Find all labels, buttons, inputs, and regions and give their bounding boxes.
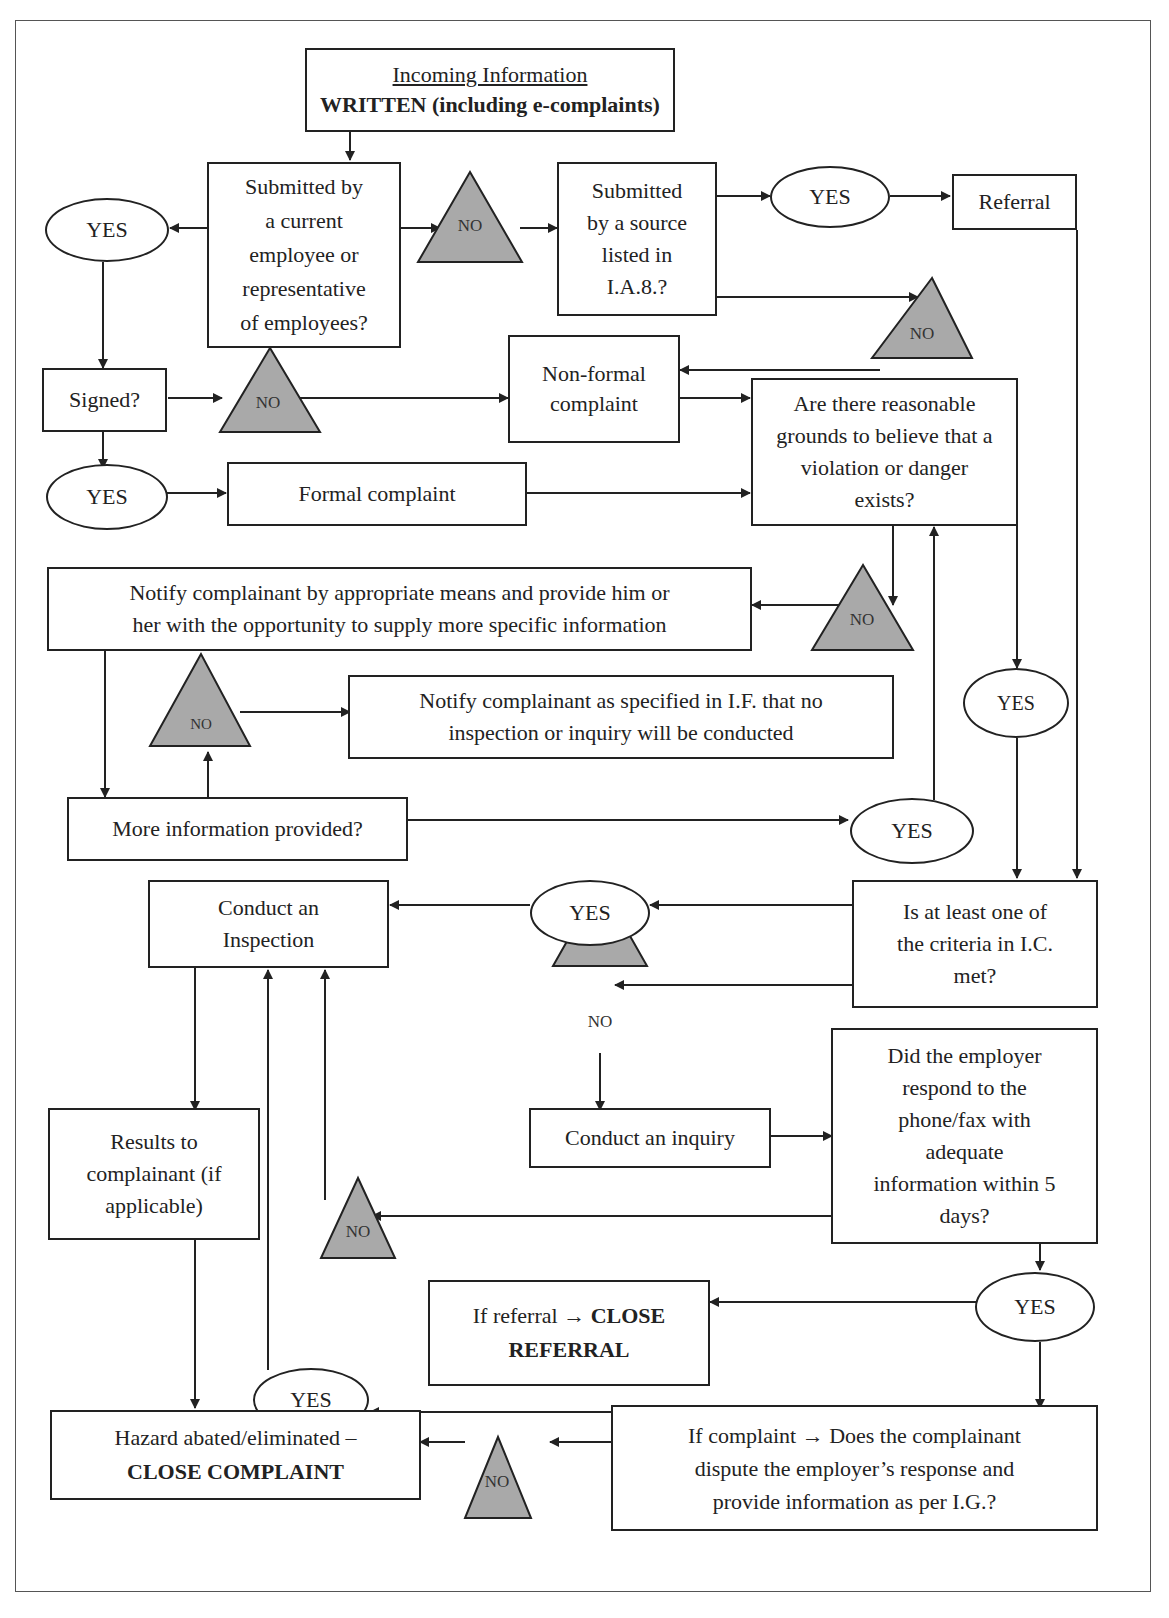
text-bold: CLOSE COMPLAINT — [127, 1455, 344, 1489]
title-line1: Incoming Information — [393, 60, 588, 90]
text-line: Inspection — [223, 924, 315, 956]
close-complaint-box: Hazard abated/eliminated – CLOSE COMPLAI… — [50, 1410, 421, 1500]
text-line: Non-formal — [542, 359, 646, 389]
text-line: violation or danger — [801, 452, 968, 484]
no-label: NO — [440, 216, 500, 236]
close-referral-line1: If referral → CLOSE — [473, 1299, 665, 1333]
text-line: of employees? — [240, 306, 368, 340]
text-line: Did the employer — [888, 1040, 1042, 1072]
text-line: complaint — [550, 389, 638, 419]
no-label: NO — [467, 1472, 527, 1492]
yes-oval-employer: YES — [975, 1272, 1095, 1342]
text-line: I.A.8.? — [607, 271, 667, 303]
formal-complaint-box: Formal complaint — [227, 462, 527, 526]
yes-oval-more-info: YES — [850, 798, 974, 864]
text-line: Conduct an — [218, 892, 319, 924]
yes-oval-source: YES — [770, 166, 890, 228]
no-label: NO — [328, 1222, 388, 1242]
title-line2: WRITTEN (including e-complaints) — [320, 90, 660, 120]
text-line: applicable) — [105, 1190, 203, 1222]
submitted-by-employee-box: Submitted by a current employee or repre… — [207, 162, 401, 348]
text-line: Is at least one of — [903, 896, 1047, 928]
text-line: grounds to believe that a — [776, 420, 992, 452]
text-line: inspection or inquiry will be conducted — [448, 717, 793, 749]
yes-oval-grounds: YES — [963, 668, 1069, 738]
text-line: a current — [265, 204, 343, 238]
signed-box: Signed? — [42, 368, 167, 432]
employer-respond-box: Did the employer respond to the phone/fa… — [831, 1028, 1098, 1244]
text-line: phone/fax with — [898, 1104, 1031, 1136]
reasonable-grounds-box: Are there reasonable grounds to believe … — [751, 378, 1018, 526]
text-line: respond to the — [902, 1072, 1027, 1104]
text-bold: CLOSE — [591, 1303, 666, 1328]
text-line: by a source — [587, 207, 687, 239]
text-line: adequate — [925, 1136, 1003, 1168]
yes-oval-signed: YES — [46, 464, 168, 530]
text-line: representative — [242, 272, 365, 306]
yes-label: YES — [86, 217, 128, 243]
close-referral-box: If referral → CLOSE REFERRAL — [428, 1280, 710, 1386]
text-line: employee or — [249, 238, 358, 272]
text-line: Hazard abated/eliminated – — [115, 1421, 357, 1455]
non-formal-complaint-box: Non-formal complaint — [508, 335, 680, 443]
yes-label: YES — [569, 900, 611, 926]
text-line: her with the opportunity to supply more … — [132, 609, 666, 641]
conduct-inspection-box: Conduct an Inspection — [148, 880, 389, 968]
text-line: Are there reasonable — [793, 388, 975, 420]
referral-box: Referral — [952, 174, 1077, 230]
conduct-inquiry-box: Conduct an inquiry — [529, 1108, 771, 1168]
dispute-box: If complaint → Does the complainant disp… — [611, 1405, 1098, 1531]
text-line: provide information as per I.G.? — [713, 1485, 996, 1518]
text-line: Notify complainant by appropriate means … — [129, 577, 669, 609]
text-line: Results to — [110, 1126, 197, 1158]
no-label: NO — [238, 393, 298, 413]
text-line: Notify complainant as specified in I.F. … — [419, 685, 822, 717]
notify-no-inspection-box: Notify complainant as specified in I.F. … — [348, 675, 894, 759]
yes-label: YES — [997, 692, 1035, 715]
text-line: Formal complaint — [298, 478, 455, 510]
text-line: the criteria in I.C. — [897, 928, 1053, 960]
more-info-provided-box: More information provided? — [67, 797, 408, 861]
submitted-by-source-box: Submitted by a source listed in I.A.8.? — [557, 162, 717, 316]
text-line: If complaint → Does the complainant — [688, 1419, 1021, 1452]
text-line: days? — [939, 1200, 989, 1232]
text-line: met? — [954, 960, 997, 992]
text-line: dispute the employer’s response and — [695, 1452, 1015, 1485]
text-line: Signed? — [69, 384, 140, 416]
yes-oval-criteria: YES — [530, 880, 650, 946]
text-line: More information provided? — [112, 813, 363, 845]
no-label: NO — [892, 324, 952, 344]
yes-label: YES — [809, 184, 851, 210]
text-pre: If referral → — [473, 1303, 591, 1328]
incoming-information-box: Incoming Information WRITTEN (including … — [305, 48, 675, 132]
no-label: NO — [171, 716, 231, 733]
no-label: NO — [832, 610, 892, 630]
text-line: Submitted — [592, 175, 682, 207]
criteria-met-box: Is at least one of the criteria in I.C. … — [852, 880, 1098, 1008]
results-to-complainant-box: Results to complainant (if applicable) — [48, 1108, 260, 1240]
yes-label: YES — [1014, 1294, 1056, 1320]
text-bold: REFERRAL — [508, 1333, 629, 1367]
text-line: complainant (if — [86, 1158, 221, 1190]
text-line: information within 5 — [873, 1168, 1055, 1200]
text-line: listed in — [602, 239, 672, 271]
yes-label: YES — [86, 484, 128, 510]
text-line: exists? — [855, 484, 915, 516]
text-line: Conduct an inquiry — [565, 1122, 735, 1154]
no-label: NO — [570, 1012, 630, 1032]
text-line: Submitted by — [245, 170, 363, 204]
yes-label: YES — [891, 818, 933, 844]
yes-oval-employee: YES — [45, 198, 169, 262]
notify-more-info-box: Notify complainant by appropriate means … — [47, 567, 752, 651]
text-line: Referral — [978, 186, 1050, 218]
